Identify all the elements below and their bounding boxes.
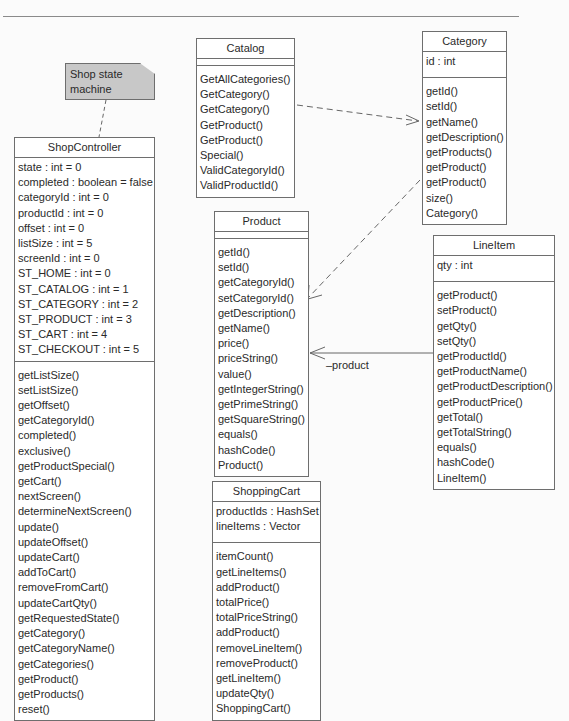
operation: setId() — [426, 99, 503, 114]
operation: getCategories() — [18, 657, 151, 672]
operation: getIntegerString() — [218, 382, 305, 397]
note-line-1: Shop state — [70, 67, 154, 82]
operation: removeFromCart() — [18, 580, 151, 595]
operation: addProduct() — [216, 625, 317, 640]
operation: LineItem() — [437, 471, 551, 486]
class-shopping-cart[interactable]: ShoppingCart productIds : HashSet lineIt… — [212, 481, 321, 721]
attributes-compartment — [197, 59, 294, 66]
attribute: offset : int = 0 — [18, 221, 151, 236]
operation: getCategory() — [18, 626, 151, 641]
attribute: ST_HOME : int = 0 — [18, 266, 151, 281]
operation: getTotalString() — [437, 425, 551, 440]
attributes-compartment: qty : int — [434, 256, 554, 282]
operation: getProducts() — [18, 687, 151, 702]
operation: getId() — [218, 245, 305, 260]
operation: GetProduct() — [200, 133, 291, 148]
attribute: qty : int — [437, 258, 551, 273]
operation: exclusive() — [18, 444, 151, 459]
attribute: ST_CATEGORY : int = 2 — [18, 297, 151, 312]
operation: getProduct() — [426, 160, 503, 175]
attribute: id : int — [426, 54, 503, 69]
operation: determineNextScreen() — [18, 504, 151, 519]
operation: getProduct() — [437, 288, 551, 303]
operation: equals() — [437, 440, 551, 455]
attribute: productIds : HashSet — [216, 504, 317, 519]
operation: getDescription() — [426, 130, 503, 145]
class-name: LineItem — [434, 236, 554, 256]
operation: updateCart() — [18, 550, 151, 565]
class-shop-controller[interactable]: ShopController state : int = 0 completed… — [14, 137, 155, 721]
operation: addToCart() — [18, 565, 151, 580]
attribute: screenId : int = 0 — [18, 251, 151, 266]
operations-compartment: getId() setId() getName() getDescription… — [423, 78, 506, 224]
operation: ValidProductId() — [200, 178, 291, 193]
attribute: lineItems : Vector — [216, 519, 317, 534]
operation: GetCategory() — [200, 87, 291, 102]
operations-compartment: GetAllCategories() GetCategory() GetCate… — [197, 66, 294, 197]
attributes-compartment — [215, 232, 308, 239]
operation: Product() — [218, 458, 305, 473]
operation: totalPrice() — [216, 595, 317, 610]
operation: getRequestedState() — [18, 611, 151, 626]
operations-compartment: getProduct() setProduct() getQty() setQt… — [434, 282, 554, 489]
class-name: Category — [423, 32, 506, 52]
attribute: categoryId : int = 0 — [18, 190, 151, 205]
operation: removeLineItem() — [216, 641, 317, 656]
attribute: completed : boolean = false — [18, 175, 151, 190]
operation: getProduct() — [18, 672, 151, 687]
operation: getCategoryId() — [218, 275, 305, 290]
operation: update() — [18, 520, 151, 535]
class-line-item[interactable]: LineItem qty : int getProduct() setProdu… — [433, 235, 555, 490]
operation: getProductName() — [437, 364, 551, 379]
operation: setListSize() — [18, 383, 151, 398]
operation: GetProduct() — [200, 118, 291, 133]
operation: size() — [426, 191, 503, 206]
association-role-label: –product — [326, 359, 369, 371]
operation: getQty() — [437, 319, 551, 334]
class-category[interactable]: Category id : int getId() setId() getNam… — [422, 31, 507, 225]
operation: value() — [218, 367, 305, 382]
class-catalog[interactable]: Catalog GetAllCategories() GetCategory()… — [196, 38, 295, 198]
operation: getProductDescription() — [437, 379, 551, 394]
operation: getSquareString() — [218, 412, 305, 427]
operation: updateQty() — [216, 686, 317, 701]
attribute: ST_CHECKOUT : int = 5 — [18, 342, 151, 357]
operation: updateCartQty() — [18, 596, 151, 611]
operation: getProduct() — [426, 175, 503, 190]
operation: ValidCategoryId() — [200, 163, 291, 178]
operation: getCategoryName() — [18, 641, 151, 656]
operation: hashCode() — [437, 455, 551, 470]
note-line-2: machine — [70, 82, 154, 97]
operation: equals() — [218, 427, 305, 442]
operation: getProductPrice() — [437, 395, 551, 410]
attribute: ST_CART : int = 4 — [18, 327, 151, 342]
attribute: listSize : int = 5 — [18, 236, 151, 251]
operation: Category() — [426, 206, 503, 221]
operation: getProducts() — [426, 145, 503, 160]
attribute: ST_PRODUCT : int = 3 — [18, 312, 151, 327]
operation: getDescription() — [218, 306, 305, 321]
operation: GetAllCategories() — [200, 72, 291, 87]
operations-compartment: getListSize() setListSize() getOffset() … — [15, 362, 154, 721]
attribute: productId : int = 0 — [18, 206, 151, 221]
class-product[interactable]: Product getId() setId() getCategoryId() … — [214, 211, 309, 477]
operation: getId() — [426, 84, 503, 99]
operations-compartment: itemCount() getLineItems() addProduct() … — [213, 543, 320, 719]
class-name: Product — [215, 212, 308, 232]
operation: nextScreen() — [18, 489, 151, 504]
operation: Special() — [200, 148, 291, 163]
operations-compartment: getId() setId() getCategoryId() setCateg… — [215, 239, 308, 476]
attributes-compartment: state : int = 0 completed : boolean = fa… — [15, 158, 154, 362]
operation: getLineItems() — [216, 565, 317, 580]
operation: updateOffset() — [18, 535, 151, 550]
operation: getLineItem() — [216, 671, 317, 686]
state-machine-note: Shop state machine — [65, 63, 155, 100]
page-top-rule — [3, 16, 519, 17]
operation: GetCategory() — [200, 102, 291, 117]
operation: getName() — [426, 115, 503, 130]
operation: getListSize() — [18, 368, 151, 383]
operation: setProduct() — [437, 303, 551, 318]
operation: completed() — [18, 428, 151, 443]
operation: getCart() — [18, 474, 151, 489]
attribute: ST_CATALOG : int = 1 — [18, 282, 151, 297]
